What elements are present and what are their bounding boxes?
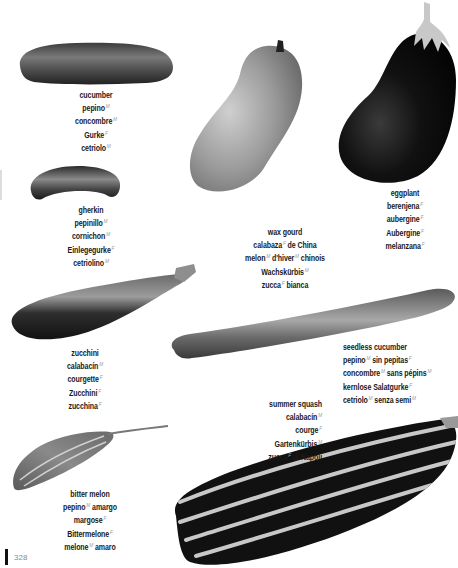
translation-word: Zucchini <box>69 389 97 398</box>
translation-word: sans pépins <box>387 369 427 378</box>
eggplant-label: eggplantberenjenaFaubergineFAubergineFme… <box>366 189 443 252</box>
gender-marker: M <box>89 542 93 548</box>
gender-marker: M <box>106 103 110 109</box>
translation-word: concombre <box>343 369 380 378</box>
gherkin-image <box>28 163 124 203</box>
gender-marker: M <box>369 395 373 401</box>
translation-word: melon <box>245 254 265 263</box>
translation-line: ZucchiniF <box>38 386 133 399</box>
translation-word: cornichon <box>72 232 105 241</box>
translation-line: meloneM amaro <box>47 540 133 553</box>
seedless-cucumber-label: seedless cucumberpepinoM sin pepitasFcon… <box>343 343 446 406</box>
translation-line: berenjenaF <box>366 199 443 212</box>
translation-word: pepino <box>63 503 86 512</box>
translation-line: calabazaF de China <box>225 238 345 251</box>
english-term: gherkin <box>44 206 139 216</box>
translation-line: margoseF <box>47 513 133 526</box>
translation-line: zucchinaF <box>38 399 133 412</box>
gender-marker: F <box>99 401 102 407</box>
translation-line: calabacínM <box>236 410 322 423</box>
translation-word: calabacín <box>286 413 317 422</box>
gender-marker: F <box>422 241 425 247</box>
gherkin-label: gherkinpepinilloMcornichonMEinlegegurkeF… <box>44 206 139 269</box>
translation-word: zucchina <box>68 402 97 411</box>
translation-word: Aubergine <box>386 229 420 238</box>
translation-word: kernlose Salatgurke <box>343 383 408 392</box>
translation-word: margose <box>74 516 103 525</box>
translation-line: kernlose SalatgurkeF <box>343 380 446 393</box>
translation-line: pepinoM amargo <box>47 500 133 513</box>
translation-line: GartenkürbisM <box>236 437 322 450</box>
translation-line: melanzanaF <box>366 239 443 252</box>
gender-marker: M <box>366 355 370 361</box>
gender-marker: F <box>420 201 423 207</box>
translation-word: Gartenkürbis <box>274 440 317 449</box>
translation-word: senza semi <box>374 396 411 405</box>
gender-marker: M <box>427 368 431 374</box>
bitter-melon-label: bitter melonpepinoM amargomargoseFBitter… <box>47 490 133 553</box>
translation-word: aubergine <box>387 215 420 224</box>
gender-marker: M <box>318 439 322 445</box>
translation-line: courgeF <box>236 423 322 436</box>
gender-marker: F <box>288 452 291 458</box>
gender-marker: M <box>106 231 110 237</box>
translation-line: pepinilloM <box>44 216 139 229</box>
translation-word: courgette <box>68 375 99 384</box>
translation-word: concombre <box>75 117 112 126</box>
translation-line: GurkeF <box>62 128 131 141</box>
translation-word: calabaza <box>253 241 282 250</box>
gender-marker: M <box>381 368 385 374</box>
page-number: 328 <box>14 553 27 562</box>
translation-word: calabacín <box>67 362 98 371</box>
translation-word: Einlegegurke <box>68 246 111 255</box>
english-term: eggplant <box>366 189 443 199</box>
bitter-melon-image <box>10 424 170 492</box>
translation-line: zuccaF di Napoli <box>236 450 322 463</box>
gender-marker: M <box>99 361 103 367</box>
english-term: summer squash <box>236 400 322 410</box>
translation-word: di Napoli <box>293 453 322 462</box>
translation-line: EinlegegurkeF <box>44 243 139 256</box>
translation-line: concombreM sans pépinsM <box>343 366 446 379</box>
gender-marker: M <box>295 253 299 259</box>
cucumber-image <box>16 40 176 88</box>
translation-word: amargo <box>92 503 117 512</box>
folio-bar <box>5 549 8 565</box>
gender-marker: M <box>318 412 322 418</box>
gender-marker: F <box>103 515 106 521</box>
translation-line: calabacínM <box>38 359 133 372</box>
translation-line: cetrioloM <box>62 141 131 154</box>
translation-line: cornichonM <box>44 229 139 242</box>
translation-line: WachskürbisM <box>225 265 345 278</box>
translation-word: courge <box>295 426 318 435</box>
cucumber-label: cucumberpepinoMconcombreMGurkeFcetrioloM <box>62 91 131 154</box>
translation-line: pepinoM sin pepitasF <box>343 353 446 366</box>
gender-marker: M <box>86 502 90 508</box>
gender-marker: F <box>283 240 286 246</box>
summer-squash-label: summer squashcalabacínMcourgeFGartenkürb… <box>236 400 322 463</box>
gender-marker: F <box>100 374 103 380</box>
translation-line: cetrioloM senza semiM <box>343 393 446 406</box>
gender-marker: F <box>112 245 115 251</box>
zucchini-label: zucchinicalabacínMcourgetteFZucchiniFzuc… <box>38 349 133 412</box>
translation-word: melanzana <box>386 242 421 251</box>
translation-line: BittermeloneF <box>47 527 133 540</box>
translation-word: cetriolo <box>343 396 368 405</box>
translation-word: pepinillo <box>75 219 103 228</box>
gender-marker: M <box>113 116 117 122</box>
translation-line: AubergineF <box>366 226 443 239</box>
page-folio: 328 <box>5 549 27 565</box>
gender-marker: F <box>110 529 113 535</box>
gender-marker: F <box>421 228 424 234</box>
translation-word: Bittermelone <box>67 530 109 539</box>
page-edge-tab <box>0 170 2 200</box>
translation-word: pepino <box>343 356 366 365</box>
translation-word: sin pepitas <box>372 356 408 365</box>
translation-word: d'hiver <box>272 254 294 263</box>
english-term: cucumber <box>62 91 131 101</box>
gender-marker: F <box>420 214 423 220</box>
translation-word: de China <box>288 241 317 250</box>
translation-word: zucca <box>268 453 287 462</box>
translation-line: pepinoM <box>62 101 131 114</box>
translation-line: concombreM <box>62 114 131 127</box>
